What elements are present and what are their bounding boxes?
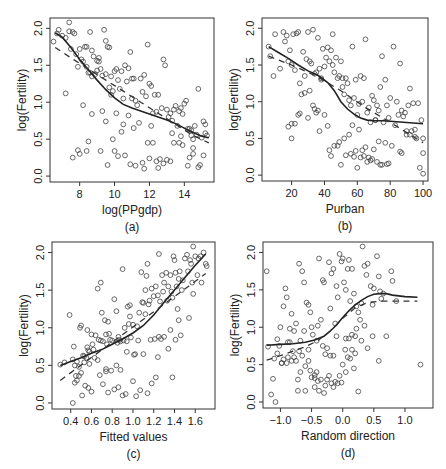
data-point — [376, 274, 381, 279]
x-tick-label: 0.8 — [105, 415, 120, 427]
data-point — [67, 20, 72, 25]
x-axis-ticks: 20406080100 — [285, 181, 432, 199]
data-point — [347, 132, 352, 137]
data-point — [352, 291, 357, 296]
x-tick-label: 0.0 — [335, 414, 350, 426]
data-point — [144, 274, 149, 279]
y-axis-label: log(Fertility) — [15, 69, 29, 132]
data-point — [168, 273, 173, 278]
data-point — [348, 299, 353, 304]
data-point — [84, 149, 89, 154]
y-tick-label: 1.0 — [244, 94, 256, 109]
data-point — [116, 385, 121, 390]
y-tick-label: 2.0 — [245, 245, 257, 260]
x-tick-label: −1.0 — [270, 414, 292, 426]
data-point — [291, 32, 296, 37]
data-point — [128, 162, 133, 167]
data-point — [195, 273, 200, 278]
data-point — [308, 310, 313, 315]
data-point — [310, 332, 315, 337]
x-tick-label: 1.4 — [167, 415, 182, 427]
y-axis-ticks: 0.00.51.01.52.0 — [244, 21, 262, 183]
data-point — [168, 328, 173, 333]
data-point — [149, 124, 154, 129]
data-point — [391, 44, 396, 49]
data-point — [322, 113, 327, 118]
data-point — [408, 86, 413, 91]
data-point — [187, 155, 192, 160]
smooth-curve — [60, 254, 205, 365]
data-point — [76, 64, 81, 69]
data-point — [327, 260, 332, 265]
x-tick-label: 8 — [77, 188, 83, 200]
data-point — [191, 244, 196, 249]
data-point — [86, 139, 91, 144]
data-point — [306, 347, 311, 352]
data-point — [363, 37, 368, 42]
x-tick-label: 0.5 — [366, 414, 381, 426]
data-point — [388, 96, 393, 101]
data-point — [185, 252, 190, 257]
data-point — [329, 154, 334, 159]
data-point — [101, 382, 106, 387]
data-point — [77, 47, 82, 52]
x-tick-label: 80 — [384, 187, 396, 199]
data-point — [178, 333, 183, 338]
data-point — [312, 385, 317, 390]
data-point — [378, 85, 383, 90]
data-point — [306, 116, 311, 121]
data-point — [143, 288, 148, 293]
data-point — [103, 39, 108, 44]
data-point — [161, 289, 166, 294]
data-point — [102, 27, 107, 32]
data-point — [196, 87, 201, 92]
data-point — [358, 317, 363, 322]
data-point — [106, 390, 111, 395]
data-point — [357, 127, 362, 132]
x-tick-label: 14 — [178, 188, 190, 200]
x-tick-label: 1.2 — [146, 415, 161, 427]
data-point — [296, 377, 301, 382]
x-tick-label: 1.0 — [397, 414, 412, 426]
data-point — [70, 155, 75, 160]
y-axis-ticks: 0.00.51.01.52.0 — [32, 21, 50, 184]
y-tick-label: 1.0 — [245, 320, 257, 335]
data-point — [371, 147, 376, 152]
data-point — [180, 112, 185, 117]
data-point — [340, 256, 345, 261]
data-point — [322, 391, 327, 396]
data-point — [421, 151, 426, 156]
data-point — [339, 259, 344, 264]
data-point — [284, 33, 289, 38]
data-point — [375, 254, 380, 259]
data-point — [345, 81, 350, 86]
data-point — [107, 45, 112, 50]
data-point — [406, 103, 411, 108]
data-point — [316, 35, 321, 40]
y-tick-label: 2.0 — [34, 245, 46, 260]
data-point — [120, 267, 125, 272]
data-point — [127, 314, 132, 319]
panel-caption: (d) — [341, 446, 356, 460]
data-point — [99, 310, 104, 315]
data-point — [90, 342, 95, 347]
data-point — [370, 302, 375, 307]
y-tick-label: 0.0 — [245, 394, 257, 409]
data-point — [283, 286, 288, 291]
y-tick-label: 0.0 — [244, 167, 256, 182]
data-point — [297, 81, 302, 86]
data-point — [394, 99, 399, 104]
data-point — [342, 92, 347, 97]
data-point — [302, 74, 307, 79]
data-point — [116, 78, 121, 83]
data-point — [380, 54, 385, 59]
y-tick-label: 1.0 — [34, 320, 46, 335]
data-point — [95, 286, 100, 291]
data-point — [85, 345, 90, 350]
data-point — [297, 261, 302, 266]
x-tick-label: 10 — [108, 188, 120, 200]
x-axis-label: log(PPgdp) — [102, 203, 162, 217]
data-point — [278, 66, 283, 71]
data-point — [88, 30, 93, 35]
panel-a-log-ppgdp: 8101214 0.00.51.01.52.0 log(PPgdp) log(F… — [15, 18, 214, 234]
